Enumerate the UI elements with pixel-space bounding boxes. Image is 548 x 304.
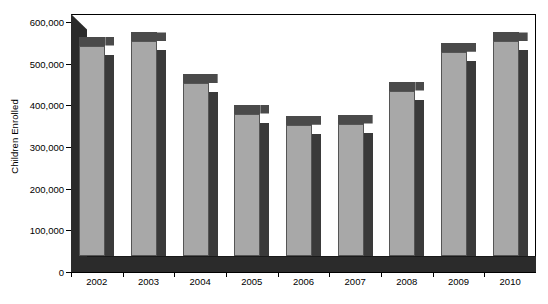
bar-top-corner: [519, 32, 528, 41]
bar-top-face: [234, 105, 260, 114]
bar-front-face: [338, 124, 364, 257]
bar-top-corner: [209, 74, 218, 83]
bar-top-corner: [105, 37, 114, 46]
bar-top-corner: [157, 32, 166, 41]
x-axis-line: [71, 272, 536, 273]
bar-front-face: [131, 41, 157, 256]
x-axis-tick-label: 2005: [241, 276, 262, 287]
x-axis-tick-label: 2003: [138, 276, 159, 287]
bar-side-face: [260, 123, 269, 257]
bar-side-face: [157, 50, 166, 256]
y-axis-tick-labels: 0100,000200,000300,000400,000500,000600,…: [18, 0, 64, 304]
bar-top-corner: [260, 105, 269, 114]
y-axis-tick-label: 0: [18, 267, 64, 278]
bar-side-face: [105, 55, 114, 256]
bar-side-face: [467, 61, 476, 256]
bar-column: [79, 46, 105, 256]
bar-chart: Children Enrolled 0100,000200,000300,000…: [0, 0, 548, 304]
bar-front-face: [441, 52, 467, 256]
bar-top-face: [338, 115, 364, 124]
bar-side-face: [415, 100, 424, 256]
x-axis-tick-label: 2004: [190, 276, 211, 287]
bar-top-face: [286, 116, 312, 125]
x-axis-tick-label: 2009: [448, 276, 469, 287]
bar-front-face: [286, 125, 312, 256]
y-axis-tick-label: 500,000: [18, 58, 64, 69]
bar-top-face: [79, 37, 105, 46]
bar-side-face: [364, 133, 373, 257]
bar-top-corner: [415, 82, 424, 91]
y-axis-tick-label: 100,000: [18, 225, 64, 236]
bar-side-face: [209, 92, 218, 256]
bar-front-face: [79, 46, 105, 256]
bar-top-face: [441, 43, 467, 52]
x-axis-tick-label: 2006: [293, 276, 314, 287]
bar-front-face: [183, 83, 209, 256]
bar-top-corner: [364, 115, 373, 124]
bar-top-face: [183, 74, 209, 83]
bar-top-face: [493, 32, 519, 41]
bar-column: [234, 114, 260, 257]
bar-top-face: [389, 82, 415, 91]
y-axis-tick-label: 600,000: [18, 17, 64, 28]
x-axis-tick-labels: 200220032004200520062007200820092010: [71, 276, 536, 296]
y-axis-tick-label: 400,000: [18, 100, 64, 111]
x-axis-tick-label: 2010: [500, 276, 521, 287]
bar-column: [131, 41, 157, 256]
bar-top-corner: [312, 116, 321, 125]
bar-front-face: [389, 91, 415, 256]
bar-column: [441, 52, 467, 256]
bar-series: [71, 14, 536, 272]
bar-top-corner: [467, 43, 476, 52]
bar-column: [389, 91, 415, 256]
y-axis-tick-label: 300,000: [18, 142, 64, 153]
x-axis-tick-label: 2008: [396, 276, 417, 287]
bar-front-face: [234, 114, 260, 257]
bar-column: [286, 125, 312, 256]
bar-top-face: [131, 32, 157, 41]
x-axis-tick-label: 2007: [345, 276, 366, 287]
bar-front-face: [493, 41, 519, 256]
bar-column: [493, 41, 519, 256]
bar-side-face: [312, 134, 321, 256]
bar-column: [183, 83, 209, 256]
bar-column: [338, 124, 364, 257]
bar-side-face: [519, 50, 528, 256]
y-axis-tick-label: 200,000: [18, 183, 64, 194]
x-axis-tick-label: 2002: [86, 276, 107, 287]
